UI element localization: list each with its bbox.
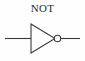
- inversion-bubble-icon: [54, 35, 60, 41]
- not-gate-diagram: NOT: [0, 0, 85, 61]
- not-gate-symbol: [0, 0, 85, 61]
- inverter-triangle-icon: [31, 24, 55, 53]
